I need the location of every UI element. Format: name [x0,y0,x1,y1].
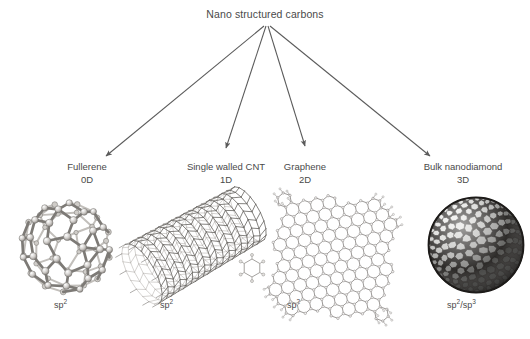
nanotube-icon [128,188,264,306]
honeycomb-sheet-icon [253,183,413,335]
arrow-to-fullerene [106,26,264,156]
nanodiamond-sphere-icon [426,195,526,295]
arrow-to-bulk-nanodiamond [270,26,430,156]
arrow-to-graphene [268,26,305,146]
hybridization-base2-bulk-nanodiamond: sp [463,300,473,310]
nano-structured-carbons-figure: Nano structured carbons Fullerene 0D Sin… [0,0,530,339]
category-dimensionality-bulk-nanodiamond: 3D [400,174,526,187]
category-dimensionality-fullerene: 0D [32,174,142,187]
category-name-graphene: Graphene [284,161,326,172]
category-label-fullerene: Fullerene 0D [32,161,142,186]
category-label-bulk-nanodiamond: Bulk nanodiamond 3D [400,161,526,186]
hybridization-sup2-bulk-nanodiamond: 3 [472,298,476,305]
category-name-fullerene: Fullerene [67,161,107,172]
hybridization-label-bulk-nanodiamond: sp2/sp3 [447,300,476,310]
category-name-bulk-nanodiamond: Bulk nanodiamond [424,161,503,172]
arrow-to-single-walled-cnt [226,26,266,148]
hybridization-base-bulk-nanodiamond: sp [447,300,457,310]
category-name-single-walled-cnt: Single walled CNT [187,161,265,172]
buckyball-sphere-icon [10,193,122,301]
hybridization-base-fullerene: sp [54,300,64,310]
hybridization-label-fullerene: sp2 [54,300,67,310]
